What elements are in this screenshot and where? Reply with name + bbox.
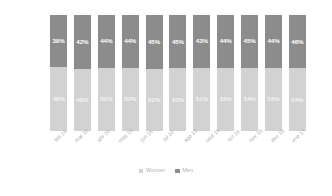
bar-value-label-men: 46% xyxy=(291,39,303,45)
bar-value-label-men: 45% xyxy=(148,39,160,45)
x-axis-tick: mar 16 xyxy=(72,131,89,165)
bar-segment-women[interactable]: 52% xyxy=(98,68,115,131)
x-axis-tick: ago 16 xyxy=(180,131,197,165)
chart-plot-area: 39%48%42%48%44%52%44%52%45%52%45%53%43%5… xyxy=(50,15,306,131)
bar-column[interactable]: 39%48% xyxy=(50,15,67,131)
bar-value-label-women: 51% xyxy=(196,96,208,102)
bar-column[interactable]: 44%52% xyxy=(122,15,139,131)
x-axis-tick-label: dec 16 xyxy=(270,128,286,143)
x-axis-tick: dec 16 xyxy=(267,131,284,165)
bar-column[interactable]: 45%53% xyxy=(169,15,186,131)
bar-value-label-women: 54% xyxy=(244,96,256,102)
bar-segment-men[interactable]: 44% xyxy=(217,15,234,68)
bar-value-label-men: 39% xyxy=(52,38,64,44)
bar-value-label-men: 43% xyxy=(196,38,208,44)
x-axis-tick-label: jul 16 xyxy=(162,130,175,143)
bar-segment-men[interactable]: 45% xyxy=(146,15,163,69)
bar-segment-women[interactable]: 54% xyxy=(289,68,306,131)
bar-value-label-women: 52% xyxy=(220,96,232,102)
bar-segment-women[interactable]: 48% xyxy=(50,67,67,131)
bar-segment-men[interactable]: 43% xyxy=(193,15,210,68)
bar-column[interactable]: 45%54% xyxy=(241,15,258,131)
legend-label: Women xyxy=(146,168,165,174)
x-axis-tick: may 16 xyxy=(115,131,132,165)
x-axis-tick-labels: feb 16mar 16abr 16may 16jun 16jul 16ago … xyxy=(50,131,306,165)
bar-value-label-women: 54% xyxy=(291,97,303,103)
bar-value-label-women: 52% xyxy=(124,96,136,102)
bar-segment-women[interactable]: 52% xyxy=(217,68,234,131)
bar-segment-men[interactable]: 45% xyxy=(241,15,258,68)
bar-column[interactable]: 44%53% xyxy=(265,15,282,131)
bar-segment-men[interactable]: 46% xyxy=(289,15,306,68)
bar-segment-women[interactable]: 52% xyxy=(122,68,139,131)
bar-value-label-women: 48% xyxy=(76,97,88,103)
bar-value-label-men: 42% xyxy=(76,39,88,45)
x-axis-tick-label: ago 16 xyxy=(183,128,199,143)
x-axis-tick-label: abr 16 xyxy=(96,129,111,143)
x-axis-tick-label: mar 16 xyxy=(74,128,90,143)
x-axis-tick-label: oct 16 xyxy=(227,129,241,143)
bar-column[interactable]: 44%52% xyxy=(217,15,234,131)
bar-value-label-men: 44% xyxy=(220,38,232,44)
legend-item-women[interactable]: Women xyxy=(139,168,165,174)
x-axis-tick: feb 16 xyxy=(50,131,67,165)
x-axis-tick-label: sept 16 xyxy=(204,128,221,144)
x-axis-tick-label: may 16 xyxy=(117,128,134,144)
bar-value-label-men: 44% xyxy=(267,38,279,44)
men-swatch xyxy=(175,169,180,174)
bar-value-label-women: 53% xyxy=(172,97,184,103)
bar-column[interactable]: 45%52% xyxy=(146,15,163,131)
bar-segment-women[interactable]: 52% xyxy=(146,69,163,131)
bar-value-label-men: 44% xyxy=(100,38,112,44)
bar-column[interactable]: 42%48% xyxy=(74,15,91,131)
bar-column[interactable]: 43%51% xyxy=(193,15,210,131)
x-axis-tick: ene 17 xyxy=(289,131,306,165)
x-axis-tick-label: nov 16 xyxy=(248,128,264,143)
x-axis-tick: oct 16 xyxy=(224,131,241,165)
bar-value-label-women: 52% xyxy=(148,97,160,103)
women-swatch xyxy=(139,169,144,174)
x-axis-tick: sept 16 xyxy=(202,131,219,165)
legend-label: Men xyxy=(182,168,193,174)
bar-column[interactable]: 46%54% xyxy=(289,15,306,131)
x-axis-tick: abr 16 xyxy=(93,131,110,165)
bar-value-label-men: 45% xyxy=(172,39,184,45)
bar-value-label-men: 45% xyxy=(244,38,256,44)
bar-segment-women[interactable]: 54% xyxy=(241,68,258,131)
bar-segment-men[interactable]: 44% xyxy=(98,15,115,68)
bar-segment-men[interactable]: 45% xyxy=(169,15,186,68)
legend-item-men[interactable]: Men xyxy=(175,168,193,174)
x-axis-tick-label: jun 16 xyxy=(140,129,154,143)
bar-value-label-women: 52% xyxy=(100,96,112,102)
bar-segment-men[interactable]: 44% xyxy=(122,15,139,68)
x-axis-tick-label: feb 16 xyxy=(53,129,68,143)
bar-segment-men[interactable]: 44% xyxy=(265,15,282,68)
bar-value-label-women: 48% xyxy=(52,96,64,102)
x-axis-tick: jul 16 xyxy=(159,131,176,165)
bar-segment-men[interactable]: 39% xyxy=(50,15,67,67)
bar-segment-women[interactable]: 51% xyxy=(193,68,210,131)
bar-value-label-men: 44% xyxy=(124,38,136,44)
bar-segment-women[interactable]: 53% xyxy=(265,68,282,131)
stacked-bar-chart: 39%48%42%48%44%52%44%52%45%52%45%53%43%5… xyxy=(0,0,332,196)
chart-legend: WomenMen xyxy=(0,168,332,174)
bar-segment-men[interactable]: 42% xyxy=(74,15,91,69)
x-axis-tick-label: ene 17 xyxy=(291,128,307,143)
bar-column[interactable]: 44%52% xyxy=(98,15,115,131)
x-axis-tick: nov 16 xyxy=(245,131,262,165)
bar-value-label-women: 53% xyxy=(267,96,279,102)
x-axis-tick: jun 16 xyxy=(137,131,154,165)
bar-segment-women[interactable]: 48% xyxy=(74,69,91,131)
bar-segment-women[interactable]: 53% xyxy=(169,68,186,131)
